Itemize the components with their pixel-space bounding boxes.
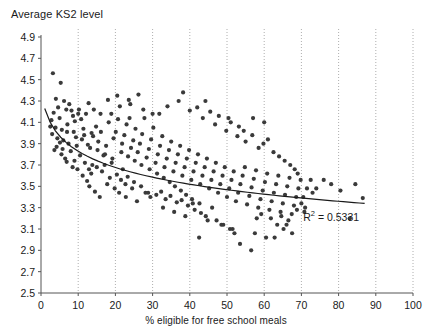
x-axis-title: % eligible for free school meals — [0, 315, 432, 326]
data-point — [293, 167, 297, 171]
data-point — [278, 210, 282, 214]
data-point — [234, 199, 238, 203]
data-point — [210, 206, 214, 210]
y-tick-label: 3.9 — [9, 139, 35, 149]
data-point — [78, 153, 82, 157]
data-point — [194, 161, 198, 165]
data-point — [64, 107, 68, 111]
data-point — [100, 169, 104, 173]
data-point — [154, 193, 158, 197]
data-point — [87, 184, 91, 188]
y-tick-label: 2.5 — [9, 288, 35, 298]
data-point — [267, 208, 271, 212]
data-point — [99, 130, 103, 134]
data-point — [169, 139, 173, 143]
data-point — [204, 214, 208, 218]
data-point — [88, 146, 92, 150]
data-point — [82, 133, 86, 137]
data-point — [105, 182, 109, 186]
data-point — [107, 120, 111, 124]
data-point — [305, 186, 309, 190]
data-point — [272, 191, 276, 195]
data-point — [183, 214, 187, 218]
x-tick-label: 100 — [398, 300, 428, 310]
data-point — [251, 116, 255, 120]
y-tick-label: 3.3 — [9, 203, 35, 213]
data-point — [203, 165, 207, 169]
data-point — [250, 133, 254, 137]
data-point — [124, 195, 128, 199]
data-point — [190, 197, 194, 201]
data-point — [185, 157, 189, 161]
data-points — [48, 71, 365, 252]
data-point — [133, 159, 137, 163]
x-tick-label: 80 — [324, 300, 354, 310]
data-point — [256, 206, 260, 210]
data-point — [186, 203, 190, 207]
data-point — [288, 163, 292, 167]
data-point — [67, 102, 71, 106]
data-point — [149, 137, 153, 141]
data-point — [242, 129, 246, 133]
data-point — [110, 161, 114, 165]
data-point — [281, 227, 285, 231]
data-point — [229, 178, 233, 182]
data-point — [314, 186, 318, 190]
x-tick-label: 30 — [138, 300, 168, 310]
data-point — [52, 148, 56, 152]
data-point — [160, 134, 164, 138]
data-point — [96, 139, 100, 143]
data-point — [277, 154, 281, 158]
data-point — [290, 212, 294, 216]
data-point — [72, 159, 76, 163]
data-point — [274, 182, 278, 186]
data-point — [106, 98, 110, 102]
data-point — [189, 178, 193, 182]
data-point — [87, 167, 91, 171]
data-point — [115, 173, 119, 177]
data-point — [265, 171, 269, 175]
data-point — [309, 178, 313, 182]
y-tick-label: 4.9 — [9, 32, 35, 42]
data-point — [296, 186, 300, 190]
data-point — [322, 178, 326, 182]
data-point — [338, 189, 342, 193]
data-point — [56, 105, 60, 109]
data-point — [81, 174, 85, 178]
x-tick-label: 70 — [286, 300, 316, 310]
data-point — [119, 150, 123, 154]
data-point — [237, 125, 241, 129]
data-point — [120, 142, 124, 146]
data-point — [113, 186, 117, 190]
data-point — [208, 110, 212, 114]
data-point — [247, 194, 251, 198]
data-point — [179, 189, 183, 193]
data-point — [119, 178, 123, 182]
data-point — [58, 116, 62, 120]
data-point — [89, 171, 93, 175]
data-point — [50, 132, 54, 136]
data-point — [148, 195, 152, 199]
data-point — [270, 199, 274, 203]
data-point — [249, 248, 253, 252]
data-point — [73, 119, 77, 123]
data-point — [69, 149, 73, 153]
y-tick-label: 4.5 — [9, 75, 35, 85]
data-point — [103, 152, 107, 156]
data-point — [182, 165, 186, 169]
data-point — [71, 165, 75, 169]
data-point — [148, 167, 152, 171]
data-point — [74, 135, 78, 139]
data-point — [180, 174, 184, 178]
data-point — [184, 193, 188, 197]
y-tick-label: 4.3 — [9, 96, 35, 106]
data-point — [165, 157, 169, 161]
data-point — [212, 169, 216, 173]
data-point — [292, 203, 296, 207]
data-point — [290, 231, 294, 235]
data-point — [136, 93, 140, 97]
data-point — [254, 168, 258, 172]
data-point — [361, 196, 365, 200]
data-point — [176, 152, 180, 156]
data-point — [81, 127, 85, 131]
